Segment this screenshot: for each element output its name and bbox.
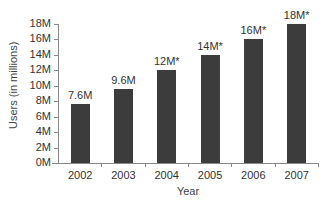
bar-2004 (157, 70, 176, 163)
bar-2003 (114, 89, 133, 163)
x-tick-mark (318, 163, 319, 167)
x-tick-label: 2002 (60, 170, 100, 181)
y-tick-mark (54, 39, 58, 40)
y-tick-label: 18M (21, 18, 51, 29)
x-tick-mark (231, 163, 232, 167)
x-tick-mark (101, 163, 102, 167)
y-tick-label: 14M (21, 49, 51, 60)
bar-value-label: 9.6M (101, 75, 145, 86)
bar-2002 (71, 104, 90, 163)
y-tick-label: 0M (21, 157, 51, 168)
y-tick-mark (54, 55, 58, 56)
x-axis-line (52, 163, 318, 164)
x-tick-label: 2006 (233, 170, 273, 181)
bar-2006 (244, 39, 263, 163)
bar-2005 (201, 55, 220, 163)
y-axis-label: Users (in millions) (7, 59, 19, 129)
x-tick-label: 2007 (277, 170, 317, 181)
x-tick-label: 2003 (103, 170, 143, 181)
x-tick-mark (275, 163, 276, 167)
x-tick-label: 2005 (190, 170, 230, 181)
y-tick-label: 8M (21, 95, 51, 106)
y-tick-label: 6M (21, 111, 51, 122)
x-tick-mark (188, 163, 189, 167)
bar-2007 (287, 24, 306, 163)
bar-value-label: 18M* (275, 10, 319, 21)
x-axis-label: Year (168, 185, 208, 197)
bar-value-label: 12M* (145, 56, 189, 67)
y-tick-label: 2M (21, 142, 51, 153)
y-tick-label: 10M (21, 80, 51, 91)
y-tick-mark (54, 70, 58, 71)
y-tick-label: 4M (21, 126, 51, 137)
y-tick-label: 16M (21, 33, 51, 44)
y-tick-mark (54, 148, 58, 149)
y-tick-mark (54, 101, 58, 102)
y-tick-mark (54, 163, 58, 164)
y-tick-mark (54, 132, 58, 133)
x-tick-mark (145, 163, 146, 167)
x-tick-label: 2004 (147, 170, 187, 181)
bar-value-label: 16M* (231, 25, 275, 36)
bar-value-label: 7.6M (58, 90, 102, 101)
y-tick-mark (54, 24, 58, 25)
y-tick-mark (54, 117, 58, 118)
y-tick-label: 12M (21, 64, 51, 75)
bar-chart: Users (in millions) Year 0M2M4M6M8M10M12… (0, 0, 334, 210)
bar-value-label: 14M* (188, 41, 232, 52)
y-tick-mark (54, 86, 58, 87)
